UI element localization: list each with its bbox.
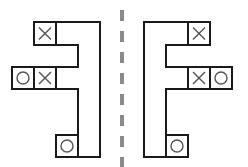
left-bottom-cell [56,135,78,157]
o-mark-icon [17,72,29,84]
x-mark-icon [39,72,51,84]
right-middle-outer-cell [210,67,232,89]
mirror-diagram [0,0,248,167]
left-figure [12,22,100,157]
o-mark-icon [61,140,73,152]
x-mark-icon [193,28,205,40]
left-middle-outer-cell [12,67,34,89]
right-bottom-cell [166,135,188,157]
x-mark-icon [193,72,205,84]
o-mark-icon [215,72,227,84]
x-mark-icon [39,28,51,40]
right-figure [144,22,232,157]
o-mark-icon [171,140,183,152]
